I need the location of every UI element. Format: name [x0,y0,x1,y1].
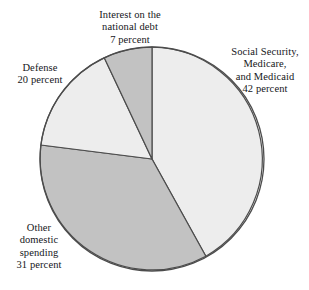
pie-label-social-security: Social Security, Medicare, and Medicaid … [222,46,308,95]
pie-label-interest-national-debt: Interest on the national debt 7 percent [74,9,186,46]
pie-label-other-domestic-spending: Other domestic spending 31 percent [1,222,77,271]
pie-chart-figure: Interest on the national debt 7 percent … [0,0,309,290]
pie-label-defense: Defense 20 percent [2,62,78,87]
